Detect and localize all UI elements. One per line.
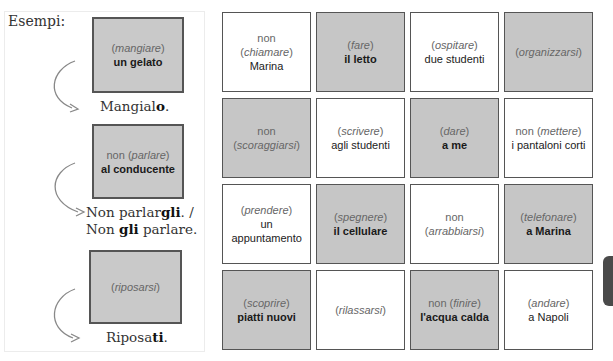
example-answer-1: Mangialo. (100, 98, 169, 115)
example-object: un gelato (114, 55, 163, 69)
grid-cell: (andare) a Napoli (504, 270, 593, 350)
example-card-3: (riposarsi) (89, 250, 182, 324)
grid-cell: (ospitare) due studenti (410, 12, 499, 92)
grid-cell: (prendere) un appuntamento (222, 184, 311, 264)
examples-heading: Esempi: (8, 13, 65, 29)
grid-cell: (scoprire) piatti nuovi (222, 270, 311, 350)
example-answer-2: Non parlargli. / Non gli parlare. (86, 204, 197, 238)
example-object: al conducente (101, 162, 175, 176)
grid-cell: (rilassarsi) (316, 270, 405, 350)
grid-cell: (fare) il letto (316, 12, 405, 92)
grid-cell: (telefonare) a Marina (504, 184, 593, 264)
grid-cell: non (scoraggiarsi) (222, 98, 311, 178)
example-verb-line: non (parlare) (106, 148, 169, 162)
grid-cell: non (finire) l'acqua calda (410, 270, 499, 350)
example-card-2: non (parlare) al conducente (92, 124, 184, 199)
exercise-grid: non (chiamare) Marina (fare) il letto (o… (222, 12, 593, 350)
example-card-1: (mangiare) un gelato (92, 17, 184, 93)
example-answer-3: Riposati. (106, 329, 168, 346)
grid-cell: non (mettere) i pantaloni corti (504, 98, 593, 178)
grid-cell: non (chiamare) Marina (222, 12, 311, 92)
curved-arrow-icon (40, 58, 90, 116)
page-side-tab (603, 256, 613, 306)
grid-cell: (organizzarsi) (504, 12, 593, 92)
grid-cell: (dare) a me (410, 98, 499, 178)
example-verb-line: (riposarsi) (111, 280, 160, 294)
grid-cell: non (arrabbiarsi) (410, 184, 499, 264)
grid-cell: (spegnere) il cellulare (316, 184, 405, 264)
grid-cell: (scrivere) agli studenti (316, 98, 405, 178)
curved-arrow-icon (40, 286, 90, 346)
example-verb-line: (mangiare) (111, 41, 164, 55)
